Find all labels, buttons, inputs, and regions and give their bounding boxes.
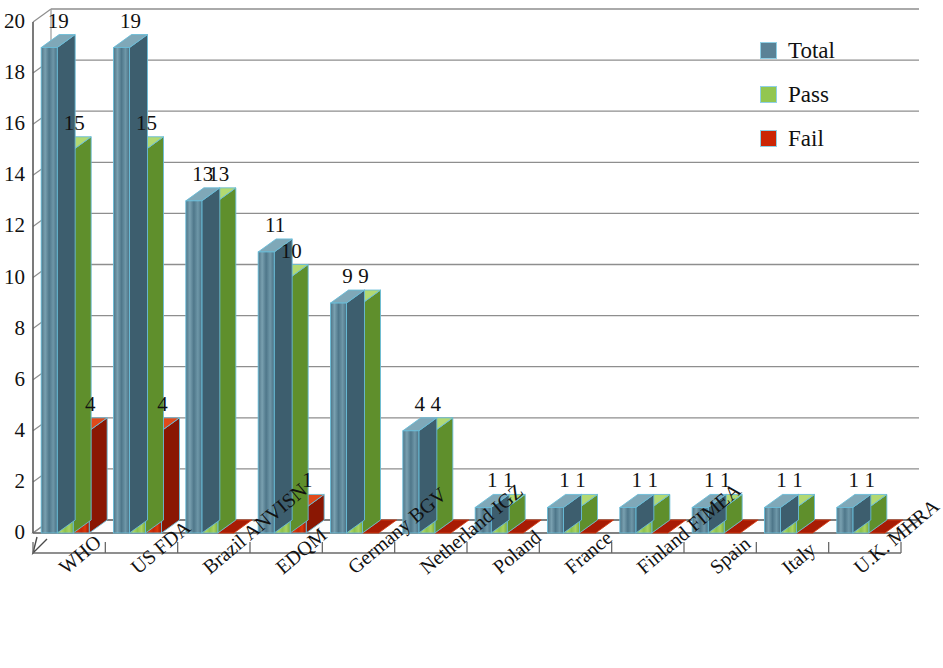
legend-item-total[interactable]: Total [760,28,835,72]
legend-swatch-total-icon [760,42,777,59]
legend-label: Total [788,39,835,62]
legend-label: Pass [788,83,829,106]
legend-label: Fail [788,127,824,150]
legend-item-pass[interactable]: Pass [760,72,835,116]
chart-legend: TotalPassFail [760,28,835,160]
legend-swatch-pass-icon [760,86,777,103]
legend-swatch-fail-icon [760,130,777,147]
legend-item-fail[interactable]: Fail [760,116,835,160]
